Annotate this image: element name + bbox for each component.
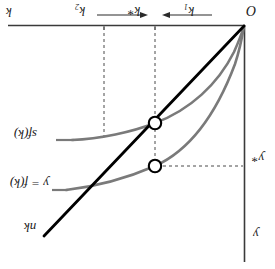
origin-label: O <box>246 3 256 17</box>
k2-label: k₂ <box>75 5 85 18</box>
convergence-arrow-from-k2 <box>97 12 148 18</box>
nk-line-label: nk <box>24 221 36 234</box>
nk-line <box>44 26 244 236</box>
ystar-label: y* <box>252 152 264 165</box>
yfk-curve-label: y = f(k) <box>10 177 49 190</box>
sfk-curve-label: sf(k) <box>14 128 37 141</box>
steady-state-marker <box>149 117 161 129</box>
output-marker <box>149 160 161 172</box>
y-axis-label: y <box>253 228 259 241</box>
kstar-label: k* <box>128 5 140 18</box>
k-axis-label: k <box>6 6 12 19</box>
k1-label: k₁ <box>184 5 194 18</box>
figure-canvas <box>0 0 275 269</box>
solow-model-figure: k k₂ k* k₁ O sf(k) y = f(k) nk y* y <box>0 0 275 269</box>
